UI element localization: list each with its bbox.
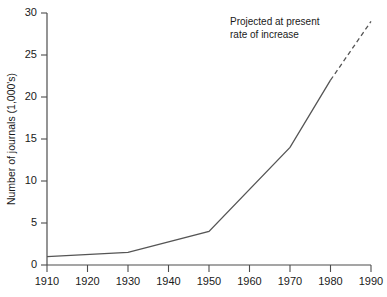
projection-note-line1: Projected at present (230, 16, 320, 27)
y-axis-title: Number of journals (1,000's) (5, 73, 17, 205)
y-tick-label: 5 (31, 216, 37, 228)
x-tick-label: 1980 (318, 275, 342, 287)
x-tick-label: 1930 (116, 275, 140, 287)
y-tick-label: 25 (25, 48, 37, 60)
x-tick-label: 1960 (237, 275, 261, 287)
line-chart: 051015202530 191019201930194019501960197… (0, 0, 387, 297)
chart-container: 051015202530 191019201930194019501960197… (0, 0, 387, 297)
x-tick-label: 1920 (75, 275, 99, 287)
x-axis-ticks: 191019201930194019501960197019801990 (35, 265, 383, 287)
x-tick-label: 1940 (156, 275, 180, 287)
y-tick-label: 0 (31, 258, 37, 270)
chart-background (0, 0, 387, 297)
x-tick-label: 1950 (197, 275, 221, 287)
x-tick-label: 1910 (35, 275, 59, 287)
x-tick-label: 1970 (278, 275, 302, 287)
y-tick-label: 20 (25, 90, 37, 102)
y-tick-label: 15 (25, 132, 37, 144)
x-tick-label: 1990 (359, 275, 383, 287)
y-tick-label: 10 (25, 174, 37, 186)
projection-note-line2: rate of increase (230, 29, 299, 40)
y-tick-label: 30 (25, 6, 37, 18)
